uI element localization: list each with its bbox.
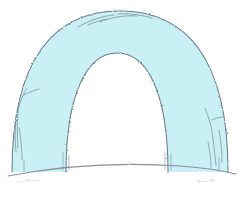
left-annotation: ⸺∿⸺ (18, 176, 39, 184)
sketch-canvas: ⸺∿⸺ ∿⸺∿ (0, 0, 244, 207)
right-annotation: ∿⸺∿ (197, 176, 214, 184)
